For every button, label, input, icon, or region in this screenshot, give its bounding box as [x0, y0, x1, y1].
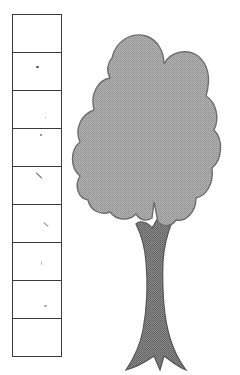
tree-trunk [126, 216, 186, 370]
tree-crown [73, 35, 221, 226]
tree-illustration [0, 0, 240, 375]
